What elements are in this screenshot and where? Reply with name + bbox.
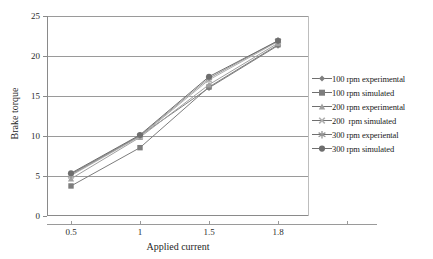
star-marker-icon	[312, 129, 332, 141]
legend-item-label: 100 rpm experimental	[332, 74, 405, 84]
x-tick-mark	[278, 221, 279, 225]
square-marker-icon	[312, 87, 332, 99]
triangle-marker-icon	[312, 101, 332, 113]
legend-item[interactable]: 100 rpm simulated	[312, 86, 433, 100]
x-tick-label: 1.5	[189, 228, 229, 237]
y-tick-label: 25	[10, 12, 40, 21]
y-tick-label: 0	[10, 212, 40, 221]
gridline-0	[48, 215, 308, 216]
gridline-20	[48, 56, 308, 57]
legend-item-label: 200 rpm experimental	[332, 102, 405, 112]
circle-marker-icon	[312, 143, 332, 155]
legend-item[interactable]: 300 rpm simulated	[312, 142, 433, 156]
legend-item-label: 200 rpm simulated	[332, 116, 396, 126]
legend-item[interactable]: 200 rpm simulated	[312, 114, 433, 128]
chart-screenshot: 25 20 15 10 5 0 0.5 1 1.5 1.8 Applied cu…	[0, 0, 433, 259]
x-axis-title: Applied current	[47, 241, 309, 252]
legend-item-label: 100 rpm simulated	[332, 88, 394, 98]
x-tick-mark	[347, 221, 348, 225]
x-tick-label: 1.8	[258, 228, 298, 237]
y-tick-mark	[43, 216, 47, 217]
plot-area	[47, 16, 309, 216]
gridline-5	[48, 176, 308, 177]
x-tick-mark	[140, 221, 141, 225]
x-tick-label: 0.5	[51, 228, 91, 237]
x-tick-mark	[71, 221, 72, 225]
gridline-10	[48, 136, 308, 137]
chart-legend: 100 rpm experimental 100 rpm simulated 2…	[312, 72, 433, 156]
gridline-15	[48, 96, 308, 97]
y-tick-label: 20	[10, 52, 40, 61]
gridline-25	[48, 16, 308, 17]
legend-item-label: 300 rpm simulated	[332, 144, 394, 154]
diamond-marker-icon	[312, 73, 332, 85]
y-axis-title: Brake torque	[9, 69, 20, 159]
x-tick-label: 1	[120, 228, 160, 237]
x-axis-line	[47, 224, 377, 225]
cross-marker-icon	[312, 115, 332, 127]
legend-item[interactable]: 300 rpm experiental	[312, 128, 433, 142]
x-tick-mark	[209, 221, 210, 225]
legend-item[interactable]: 100 rpm experimental	[312, 72, 433, 86]
legend-item-label: 300 rpm experiental	[332, 130, 399, 140]
legend-item[interactable]: 200 rpm experimental	[312, 100, 433, 114]
y-tick-label: 5	[10, 172, 40, 181]
